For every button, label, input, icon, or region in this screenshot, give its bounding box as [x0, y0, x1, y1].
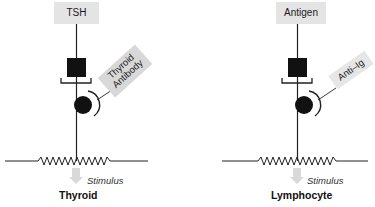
- right-receptor-circle: [295, 96, 313, 114]
- left-stimulus-label: Stimulus: [87, 175, 123, 186]
- thyroid-cell-label: Thyroid: [59, 189, 98, 201]
- left-panel-graphics: [5, 24, 148, 184]
- right-stimulus-arrow: [290, 168, 304, 184]
- left-stimulus-arrow: [69, 168, 83, 184]
- right-stimulus-label: Stimulus: [307, 175, 343, 186]
- right-panel-graphics: [222, 24, 368, 184]
- lymphocyte-cell-label: Lymphocyte: [271, 189, 332, 201]
- left-receptor-square: [67, 58, 86, 77]
- right-antibody-connector: [318, 88, 336, 100]
- diagram-canvas: TSH Thyroid Antibody Stimulus Thyroid An…: [0, 0, 375, 207]
- antigen-label: Antigen: [284, 7, 318, 18]
- right-receptor-square: [288, 58, 307, 77]
- tsh-label-box: TSH: [54, 2, 99, 24]
- left-receptor-circle: [74, 96, 92, 114]
- right-membrane: [222, 157, 368, 165]
- antigen-label-box: Antigen: [276, 2, 326, 24]
- tsh-label: TSH: [67, 7, 87, 18]
